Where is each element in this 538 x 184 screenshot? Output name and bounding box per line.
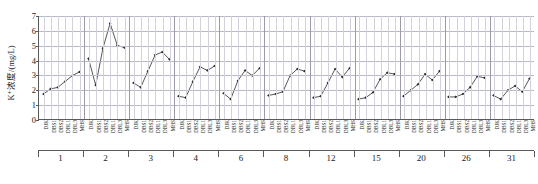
series-line — [223, 68, 259, 99]
x-site-label: DBL1 — [517, 120, 522, 133]
x-gridline — [215, 16, 216, 119]
x-gridline — [246, 16, 247, 119]
x-gridline — [253, 16, 254, 119]
x-site-label: DBL3 — [479, 120, 484, 133]
x-gridline — [478, 16, 479, 119]
x-site-label: DBL1 — [382, 120, 387, 133]
x-group-label: 8 — [263, 151, 308, 171]
x-group-label: 31 — [489, 151, 534, 171]
x-site-label: DBS2 — [510, 120, 515, 133]
group-tick — [489, 151, 490, 157]
x-gridline — [170, 16, 171, 119]
x-gridline — [96, 16, 97, 119]
x-gridline — [238, 16, 239, 119]
x-gridline — [148, 16, 149, 119]
y-gridline — [39, 61, 534, 62]
x-gridline — [125, 16, 126, 119]
x-site-label: DJK — [495, 120, 500, 130]
x-site-label: DBL3 — [118, 120, 123, 133]
x-gridline — [502, 16, 503, 119]
y-tick-mark — [36, 16, 39, 17]
x-group-label: 20 — [399, 151, 444, 171]
x-site-label: DBS2 — [284, 120, 289, 133]
group-tick — [38, 151, 39, 157]
x-gridline — [381, 16, 382, 119]
x-site-label: MHS — [351, 120, 356, 131]
x-gridline — [440, 16, 441, 119]
group-separator — [355, 16, 356, 119]
x-group-label: 4 — [173, 151, 218, 171]
x-site-label: DBS1 — [322, 120, 327, 133]
x-gridline — [80, 16, 81, 119]
x-site-label: DBL1 — [336, 120, 341, 133]
x-site-label: DBS1 — [142, 120, 147, 133]
x-gridline — [200, 16, 201, 119]
x-site-label: DJK — [225, 120, 230, 130]
y-tick-label: 3 — [32, 71, 36, 80]
x-site-label: MHS — [306, 120, 311, 131]
y-tick-label: 5 — [32, 41, 36, 50]
x-gridline — [65, 16, 66, 119]
x-site-label: DBS2 — [149, 120, 154, 133]
x-site-label: DBL1 — [472, 120, 477, 133]
x-gridline — [523, 16, 524, 119]
x-site-label: DBS1 — [412, 120, 417, 133]
x-gridline — [276, 16, 277, 119]
x-site-label: DBS1 — [457, 120, 462, 133]
x-gridline — [336, 16, 337, 119]
x-site-label: DBL1 — [201, 120, 206, 133]
plot-area: 01234567 — [38, 16, 534, 120]
x-gridline — [343, 16, 344, 119]
y-axis-title: K⁺浓度/(mg/L) — [2, 18, 18, 128]
x-gridline — [485, 16, 486, 119]
x-gridline — [186, 16, 187, 119]
x-gridline — [44, 16, 45, 119]
x-site-label: MHS — [396, 120, 401, 131]
x-gridline — [51, 16, 52, 119]
group-tick — [218, 151, 219, 157]
y-tick-mark — [36, 46, 39, 47]
y-gridline — [39, 31, 534, 32]
series-line — [359, 73, 395, 99]
x-site-label: DJK — [44, 120, 49, 130]
x-gridline — [494, 16, 495, 119]
x-group-label: 1 — [38, 151, 83, 171]
x-gridline — [321, 16, 322, 119]
x-gridline — [464, 16, 465, 119]
x-site-label: DJK — [270, 120, 275, 130]
x-gridline — [433, 16, 434, 119]
x-gridline — [163, 16, 164, 119]
x-site-label: DBL3 — [524, 120, 529, 133]
x-gridline — [395, 16, 396, 119]
group-separator — [310, 16, 311, 119]
x-gridline — [103, 16, 104, 119]
y-tick-mark — [36, 75, 39, 76]
x-site-label: DJK — [89, 120, 94, 130]
x-gridline — [328, 16, 329, 119]
group-tick — [534, 151, 535, 157]
x-site-label: DBS2 — [329, 120, 334, 133]
group-separator — [490, 16, 491, 119]
x-site-label: DJK — [405, 120, 410, 130]
x-site-label: DBS1 — [187, 120, 192, 133]
y-tick-label: 7 — [32, 12, 36, 21]
x-gridline — [141, 16, 142, 119]
series-line — [178, 66, 214, 98]
x-gridline — [404, 16, 405, 119]
x-gridline — [305, 16, 306, 119]
x-site-label: DBS1 — [97, 120, 102, 133]
x-site-label: DJK — [180, 120, 185, 130]
x-site-label: DBS1 — [367, 120, 372, 133]
y-tick-label: 1 — [32, 101, 36, 110]
y-gridline — [39, 90, 534, 91]
y-tick-label: 4 — [32, 56, 36, 65]
x-gridline — [208, 16, 209, 119]
y-gridline — [39, 46, 534, 47]
x-gridline — [350, 16, 351, 119]
x-gridline — [471, 16, 472, 119]
k-concentration-chart: K⁺浓度/(mg/L) 01234567 DJKDBS1DBS2DBL1DBL3… — [0, 0, 538, 184]
x-site-label: DBS1 — [52, 120, 57, 133]
x-site-label: DBL3 — [208, 120, 213, 133]
y-gridline — [39, 75, 534, 76]
x-gridline — [155, 16, 156, 119]
